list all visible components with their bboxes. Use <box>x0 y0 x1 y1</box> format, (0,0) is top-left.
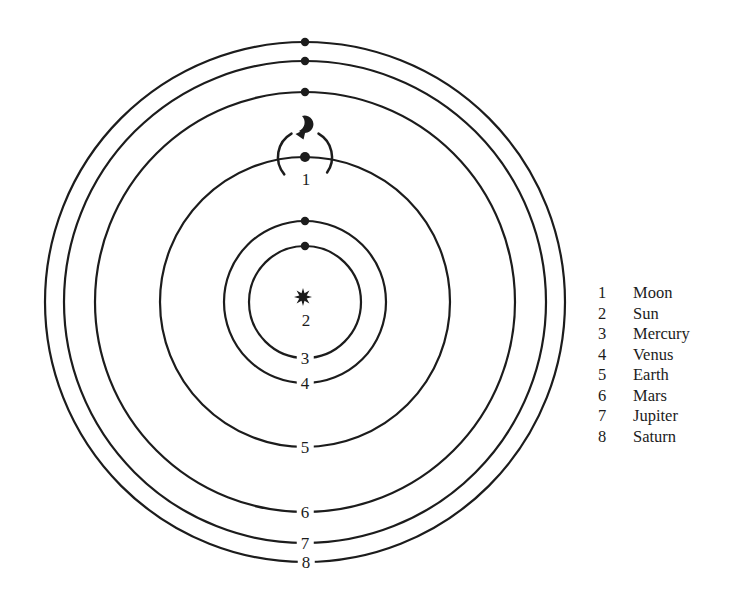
legend-number: 3 <box>598 324 633 344</box>
mercury-dot <box>301 242 309 250</box>
legend-number: 4 <box>598 345 633 365</box>
saturn-dot <box>301 38 309 46</box>
legend-item-moon: 1 Moon <box>598 283 690 304</box>
jupiter-dot <box>301 57 309 65</box>
legend-name: Jupiter <box>633 406 690 426</box>
legend-item-jupiter: 7 Jupiter <box>598 406 690 427</box>
legend-name: Mercury <box>633 324 690 344</box>
legend-name: Mars <box>633 386 690 406</box>
legend-name: Venus <box>633 345 690 365</box>
legend-number: 2 <box>598 304 633 324</box>
legend-number: 1 <box>598 283 633 303</box>
legend-name: Earth <box>633 365 690 385</box>
legend-item-sun: 2 Sun <box>598 304 690 325</box>
legend: 1 Moon 2 Sun 3 Mercury 4 Venus 5 Earth 6… <box>598 283 690 447</box>
crescent-shape <box>299 116 313 134</box>
crescent-arrow-icon <box>296 116 314 140</box>
legend-item-earth: 5 Earth <box>598 365 690 386</box>
legend-number: 5 <box>598 365 633 385</box>
earth-orbit-circle <box>160 157 450 447</box>
moon-orbit-arc-left <box>278 134 292 175</box>
legend-name: Moon <box>633 283 690 303</box>
legend-item-mars: 6 Mars <box>598 386 690 407</box>
legend-item-saturn: 8 Saturn <box>598 427 690 448</box>
venus-orbit-label: 4 <box>297 375 314 392</box>
saturn-orbit-label: 8 <box>298 554 315 571</box>
mars-orbit-label: 6 <box>297 504 314 521</box>
legend-item-venus: 4 Venus <box>598 345 690 366</box>
jupiter-orbit-label: 7 <box>297 535 314 552</box>
legend-name: Sun <box>633 304 690 324</box>
venus-dot <box>301 217 309 225</box>
mercury-orbit-circle <box>249 246 361 358</box>
legend-item-mercury: 3 Mercury <box>598 324 690 345</box>
mercury-orbit-label: 3 <box>297 350 314 367</box>
legend-number: 7 <box>598 406 633 426</box>
legend-name: Saturn <box>633 427 690 447</box>
earth-dot <box>300 152 310 162</box>
legend-number: 8 <box>598 427 633 447</box>
mars-dot <box>301 88 309 96</box>
jupiter-orbit-circle <box>64 61 546 543</box>
sun-label: 2 <box>298 312 315 329</box>
earth-orbit-label: 5 <box>297 439 314 456</box>
sun-star-icon <box>294 288 312 306</box>
page: 1 2 3 4 5 6 7 8 1 Moon 2 Sun 3 Mercury 4… <box>0 0 743 591</box>
moon-orbit-label: 1 <box>298 171 315 188</box>
moon-orbit-arc-right <box>319 134 333 173</box>
legend-number: 6 <box>598 386 633 406</box>
